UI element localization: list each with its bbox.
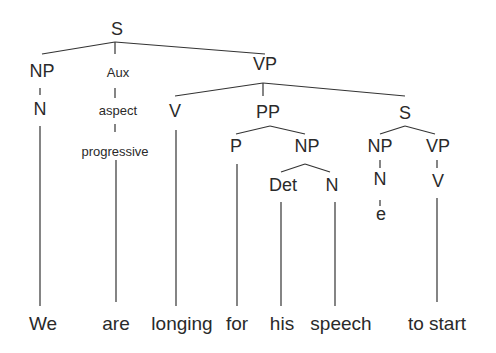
node-progressive: progressive — [81, 145, 148, 158]
word-his: his — [270, 314, 294, 333]
node-aspect: aspect — [99, 104, 137, 117]
node-s-embedded: S — [399, 104, 411, 122]
node-v-embedded: V — [432, 172, 444, 190]
word-longing: longing — [151, 314, 212, 333]
word-for: for — [226, 314, 248, 333]
node-pp: PP — [256, 103, 280, 121]
node-n: N — [34, 100, 47, 118]
node-n-embedded: N — [374, 170, 387, 188]
node-np: NP — [29, 62, 54, 80]
node-vp: VP — [253, 55, 277, 73]
node-n-object: N — [326, 176, 339, 194]
node-aux: Aux — [107, 66, 129, 79]
word-to-start: to start — [408, 314, 466, 333]
node-s-root: S — [111, 20, 123, 38]
word-we: We — [29, 314, 57, 333]
node-empty-e: e — [376, 205, 386, 223]
word-are: are — [102, 314, 129, 333]
node-np-object: NP — [294, 137, 319, 155]
node-v: V — [169, 102, 181, 120]
node-det: Det — [269, 176, 297, 194]
node-np-embedded: NP — [367, 137, 392, 155]
tree-branches — [0, 0, 496, 353]
word-speech: speech — [310, 314, 371, 333]
syntax-tree-diagram: S NP N Aux aspect progressive VP V PP P … — [0, 0, 496, 353]
node-p: P — [230, 137, 242, 155]
node-vp-embedded: VP — [426, 137, 450, 155]
